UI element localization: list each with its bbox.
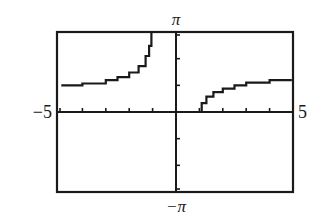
x-max-label: 5 <box>298 102 307 122</box>
curve-right-branch <box>199 79 290 112</box>
x-min-label: −5 <box>33 102 52 122</box>
y-min-label: −π <box>166 197 186 216</box>
graph: π −π −5 5 <box>0 0 320 217</box>
y-max-label: π <box>172 10 181 29</box>
curve-left-branch <box>61 33 151 85</box>
